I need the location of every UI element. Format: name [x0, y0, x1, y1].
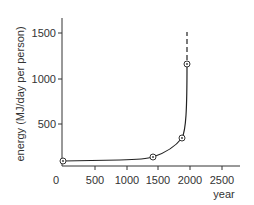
y-axis: 1500 1000 500 energy (MJ/day per person) — [14, 18, 62, 166]
data-series — [60, 32, 190, 164]
x-tick-1000: 1000 — [115, 174, 139, 186]
data-point-marker — [179, 135, 185, 141]
x-tick-1500: 1500 — [146, 174, 170, 186]
x-tick-0: 0 — [53, 174, 59, 186]
x-axis-label: year — [213, 188, 235, 200]
y-tick-500: 500 — [38, 118, 56, 130]
x-tick-2500: 2500 — [210, 174, 234, 186]
data-point-marker — [184, 61, 190, 67]
curve-line — [63, 64, 187, 161]
energy-chart: 1500 1000 500 energy (MJ/day per person)… — [0, 0, 254, 205]
y-tick-1500: 1500 — [32, 27, 56, 39]
x-tick-500: 500 — [86, 174, 104, 186]
y-axis-label: energy (MJ/day per person) — [14, 26, 26, 161]
data-point-marker — [60, 158, 66, 164]
data-point-marker — [150, 154, 156, 160]
x-tick-2000: 2000 — [178, 174, 202, 186]
x-axis: 0 500 1000 1500 2000 2500 year — [53, 166, 240, 200]
y-tick-1000: 1000 — [32, 73, 56, 85]
